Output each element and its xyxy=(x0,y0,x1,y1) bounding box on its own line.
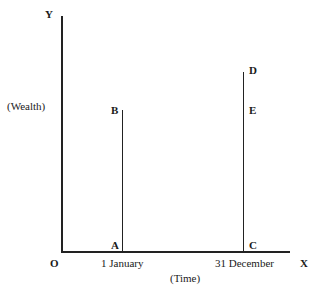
line-cd xyxy=(243,72,245,252)
point-b-label: B xyxy=(111,104,118,116)
origin-label: O xyxy=(50,257,59,269)
tick-31-december: 31 December xyxy=(215,257,274,269)
y-axis xyxy=(61,16,63,252)
point-d-label: D xyxy=(249,64,257,76)
tick-1-january: 1 January xyxy=(101,257,143,269)
point-a-label: A xyxy=(111,239,119,251)
point-e-label: E xyxy=(249,104,256,116)
x-axis xyxy=(61,251,290,253)
point-c-label: C xyxy=(249,239,257,251)
line-ab xyxy=(122,110,124,252)
y-axis-label: Y xyxy=(45,8,53,20)
x-axis-title: (Time) xyxy=(170,272,200,284)
y-axis-title: (Wealth) xyxy=(7,100,45,112)
x-axis-label: X xyxy=(300,257,308,269)
